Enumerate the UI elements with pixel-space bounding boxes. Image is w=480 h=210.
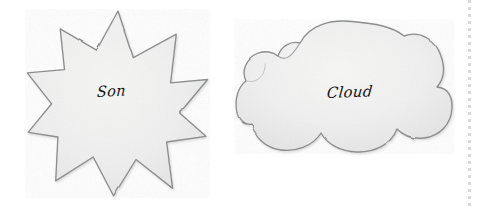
drawing-canvas: Son Cloud [0, 0, 480, 210]
hand-drawn-artwork [0, 0, 480, 210]
sun-label: Son [97, 83, 127, 100]
dotted-tear-line [468, 0, 471, 210]
sun-grain [27, 11, 207, 196]
sun-shape [27, 11, 207, 196]
cloud-label: Cloud [326, 84, 373, 101]
